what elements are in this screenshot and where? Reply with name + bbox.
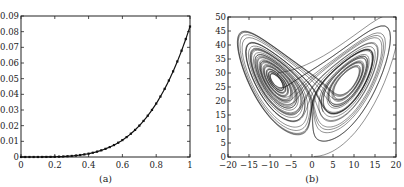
y-tick-label: 20 [215,96,226,106]
data-marker [71,155,73,157]
data-marker [45,156,47,158]
data-marker [92,152,94,154]
y-tick-label: 0.06 [0,58,19,68]
data-marker [180,50,182,52]
data-marker [79,154,81,156]
data-marker [75,154,77,156]
data-marker [168,79,170,81]
data-marker [172,70,174,72]
data-marker [126,136,128,138]
y-tick-label: 0.01 [0,136,19,146]
y-tick-label: 45 [215,26,226,36]
data-marker [121,139,123,141]
x-tick-label: 15 [370,160,381,170]
data-marker [113,144,115,146]
data-marker [83,153,85,155]
y-tick-label: 15 [215,110,226,120]
data-marker [33,156,35,158]
x-tick-label: −10 [261,160,279,170]
y-tick-label: 0 [14,152,19,162]
data-marker [96,151,98,153]
data-marker [104,148,106,150]
data-marker [155,102,157,104]
y-tick-label: 0 [221,152,226,162]
data-marker [20,156,22,158]
data-marker [24,156,26,158]
data-marker [37,156,39,158]
data-marker [100,149,102,151]
x-tick-label: 20 [391,160,402,170]
x-tick-label: 1 [187,160,192,170]
x-tick-label: 0.6 [116,160,130,170]
data-marker [130,133,132,135]
data-marker [28,156,30,158]
data-marker [58,156,60,158]
y-tick-label: 40 [215,40,226,50]
y-tick-label: 0.05 [0,74,19,84]
data-marker [41,156,43,158]
y-tick-label: 0.08 [0,27,19,37]
figure: 00.20.40.60.8100.010.020.030.040.050.060… [0,0,404,187]
y-tick-label: 0.02 [0,121,19,131]
x-tick-label: −15 [240,160,258,170]
data-marker [66,155,68,157]
x-tick-label: 5 [330,160,335,170]
data-marker [142,120,144,122]
y-tick-label: 0.03 [0,105,19,115]
data-marker [164,88,166,90]
data-marker [117,142,119,144]
data-marker [185,38,187,40]
data-marker [49,156,51,158]
y-tick-label: 10 [215,124,226,134]
x-tick-label: −5 [285,160,298,170]
x-tick-label: 0 [309,160,314,170]
data-marker [151,109,153,111]
x-tick-label: 10 [349,160,360,170]
data-marker [189,25,191,27]
data-marker [147,115,149,117]
x-tick-label: 0.8 [149,160,163,170]
data-marker [109,146,111,148]
data-marker [134,129,136,131]
curve-line [21,27,190,158]
panel-caption: (b) [305,173,319,184]
x-tick-label: 0 [18,160,23,170]
lorenz-trajectory [237,14,398,156]
y-tick-label: 25 [215,82,226,92]
data-marker [54,156,56,158]
x-tick-label: 0.2 [48,160,62,170]
y-tick-label: 35 [215,54,226,64]
panel-a-line-chart: 00.20.40.60.8100.010.020.030.040.050.060… [0,11,193,184]
y-tick-label: 0.09 [0,11,19,21]
x-tick-label: 0.4 [82,160,96,170]
y-tick-label: 30 [215,68,226,78]
panel-b-lorenz-attractor: −20−15−10−50510152005101520253035404550(… [215,12,401,184]
y-tick-label: 0.04 [0,89,19,99]
panel-caption: (a) [99,173,112,184]
data-marker [88,153,90,155]
data-marker [159,95,161,97]
y-tick-label: 50 [215,12,226,22]
plot-frame [21,16,190,157]
y-tick-label: 0.07 [0,42,19,52]
y-tick-label: 5 [221,138,226,148]
data-marker [176,60,178,62]
data-marker [62,155,64,157]
data-marker [138,125,140,127]
